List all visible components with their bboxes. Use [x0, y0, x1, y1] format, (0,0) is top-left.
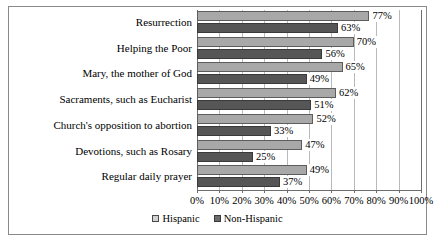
bar-non-hispanic — [197, 74, 307, 84]
x-axis-tick-labels: 0%10%20%30%40%50%60%70%80%90%100% — [197, 194, 421, 208]
tick-mark — [331, 190, 332, 193]
x-tick-label: 80% — [367, 194, 386, 208]
category-label: Sacraments, such as Eucharist — [59, 87, 192, 113]
bar-value-hispanic: 65% — [345, 61, 366, 73]
bar-hispanic — [197, 37, 354, 47]
x-tick-label: 100% — [409, 194, 434, 208]
bar-group: 65%49% — [197, 61, 421, 87]
legend-swatch-icon — [214, 215, 221, 222]
bar-value-hispanic: 77% — [371, 10, 392, 22]
bar-non-hispanic — [197, 100, 311, 110]
bar-non-hispanic — [197, 177, 280, 187]
bar-group: 52%33% — [197, 113, 421, 139]
tick-mark — [242, 190, 243, 193]
bar-non-hispanic — [197, 126, 271, 136]
bar-hispanic — [197, 11, 369, 21]
legend-label: Hispanic — [162, 213, 199, 224]
bar-value-non-hispanic: 37% — [282, 176, 303, 188]
legend-item-hispanic[interactable]: Hispanic — [152, 213, 199, 224]
category-label: Devotions, such as Rosary — [75, 139, 192, 165]
category-label: Helping the Poor — [117, 36, 192, 62]
x-tick-label: 30% — [255, 194, 274, 208]
category-axis-labels: ResurrectionHelping the PoorMary, the mo… — [13, 10, 195, 190]
bar-hispanic — [197, 114, 313, 124]
x-tick-label: 90% — [389, 194, 408, 208]
plot-area: 77%63%70%56%65%49%62%51%52%33%47%25%49%3… — [197, 10, 421, 190]
bar-value-non-hispanic: 56% — [324, 48, 345, 60]
tick-mark — [421, 190, 422, 193]
bar-value-non-hispanic: 49% — [309, 73, 330, 85]
x-tick-label: 50% — [299, 194, 318, 208]
bar-value-hispanic: 52% — [315, 113, 336, 125]
bar-group: 47%25% — [197, 139, 421, 165]
category-label: Church's opposition to abortion — [53, 113, 192, 139]
bar-hispanic — [197, 88, 336, 98]
bar-non-hispanic — [197, 23, 338, 33]
bar-hispanic — [197, 62, 343, 72]
bar-non-hispanic — [197, 152, 253, 162]
x-tick-label: 10% — [210, 194, 229, 208]
category-label: Resurrection — [136, 10, 192, 36]
tick-mark — [197, 190, 198, 193]
tick-mark — [287, 190, 288, 193]
bar-value-hispanic: 49% — [309, 164, 330, 176]
bar-group: 49%37% — [197, 164, 421, 190]
x-tick-label: 20% — [232, 194, 251, 208]
legend-swatch-icon — [152, 215, 159, 222]
x-tick-label: 40% — [277, 194, 296, 208]
bar-value-hispanic: 70% — [356, 36, 377, 48]
x-tick-label: 70% — [344, 194, 363, 208]
gridline-100% — [421, 10, 422, 190]
category-label: Regular daily prayer — [102, 164, 192, 190]
bar-group: 77%63% — [197, 10, 421, 36]
bar-value-non-hispanic: 51% — [313, 99, 334, 111]
bar-value-non-hispanic: 33% — [273, 125, 294, 137]
bar-value-hispanic: 47% — [304, 139, 325, 151]
x-tick-label: 0% — [190, 194, 204, 208]
bar-hispanic — [197, 165, 307, 175]
tick-mark — [354, 190, 355, 193]
bar-group: 70%56% — [197, 36, 421, 62]
bar-group: 62%51% — [197, 87, 421, 113]
bar-value-non-hispanic: 25% — [255, 151, 276, 163]
tick-mark — [309, 190, 310, 193]
legend-item-non-hispanic[interactable]: Non-Hispanic — [214, 213, 283, 224]
legend-label: Non-Hispanic — [224, 213, 283, 224]
tick-mark — [376, 190, 377, 193]
tick-mark — [399, 190, 400, 193]
chart-frame: ResurrectionHelping the PoorMary, the mo… — [8, 6, 427, 235]
tick-mark — [264, 190, 265, 193]
bar-non-hispanic — [197, 49, 322, 59]
bar-value-hispanic: 62% — [338, 87, 359, 99]
category-label: Mary, the mother of God — [82, 61, 192, 87]
bar-value-non-hispanic: 63% — [340, 22, 361, 34]
x-tick-label: 60% — [322, 194, 341, 208]
bar-hispanic — [197, 140, 302, 150]
tick-mark — [219, 190, 220, 193]
chart-legend: HispanicNon-Hispanic — [9, 213, 426, 224]
